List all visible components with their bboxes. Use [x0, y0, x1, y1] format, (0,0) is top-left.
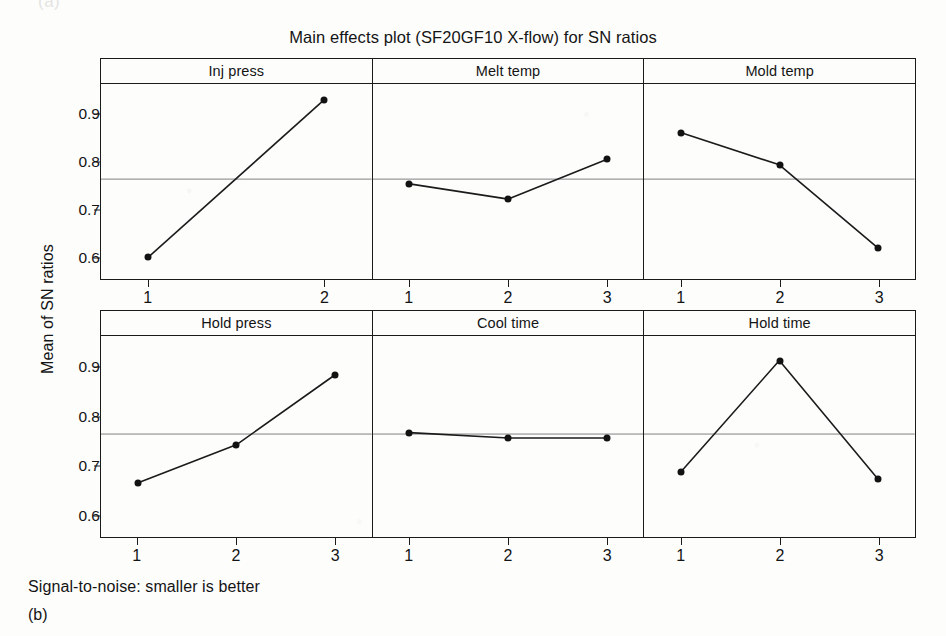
panel-title: Inj press: [208, 63, 264, 79]
data-point: [875, 245, 882, 252]
panel-header: Inj press: [101, 59, 372, 84]
x-tick-label: 1: [135, 289, 161, 307]
data-point: [776, 357, 783, 364]
x-axis-panel-ticks: 123: [644, 280, 916, 310]
x-axis-ticks-bottom-row: 123123123: [100, 538, 916, 568]
panel-hold-press: Hold press: [100, 310, 372, 538]
x-tick-label: 2: [767, 289, 793, 307]
y-axis-ticks-top-row: 0.90.80.70.6: [48, 83, 100, 280]
x-axis-panel-ticks: 123: [372, 538, 644, 568]
data-point: [677, 469, 684, 476]
x-tick-label: 2: [767, 547, 793, 565]
series-line: [138, 375, 336, 483]
panel-plot-area: [373, 336, 644, 537]
x-tick-label: 2: [495, 547, 521, 565]
panel-melt-temp: Melt temp: [372, 58, 644, 280]
x-tick-label: 3: [866, 289, 892, 307]
data-point: [332, 371, 339, 378]
data-point: [505, 434, 512, 441]
panel-title: Mold temp: [745, 63, 814, 79]
data-point: [603, 434, 610, 441]
x-axis-panel-ticks: 12: [100, 280, 372, 310]
x-tick-label: 3: [322, 547, 348, 565]
x-tick-label: 1: [668, 547, 694, 565]
data-point: [233, 441, 240, 448]
panel-header: Hold time: [644, 311, 915, 336]
x-tick-label: 3: [866, 547, 892, 565]
panel-cool-time: Cool time: [372, 310, 644, 538]
panel-header: Mold temp: [644, 59, 915, 84]
x-tick-label: 1: [668, 289, 694, 307]
x-tick-mark: [780, 538, 781, 545]
x-tick-mark: [681, 538, 682, 545]
panel-header: Hold press: [101, 311, 372, 336]
x-tick-label: 2: [223, 547, 249, 565]
x-tick-mark: [879, 538, 880, 545]
x-tick-label: 1: [396, 547, 422, 565]
y-axis-ticks-bottom-row: 0.90.80.70.6: [48, 335, 100, 538]
data-point: [406, 180, 413, 187]
x-tick-mark: [607, 538, 608, 545]
x-tick-label: 1: [124, 547, 150, 565]
panel-title: Cool time: [477, 315, 539, 331]
x-tick-mark: [148, 280, 149, 287]
x-tick-mark: [335, 538, 336, 545]
signal-to-noise-note: Signal-to-noise: smaller is better: [28, 578, 260, 596]
x-axis-panel-ticks: 123: [100, 538, 372, 568]
x-tick-mark: [879, 280, 880, 287]
x-tick-mark: [324, 280, 325, 287]
data-point: [875, 476, 882, 483]
x-axis-ticks-top-row: 12123123: [100, 280, 916, 310]
series-line: [681, 133, 879, 249]
x-tick-label: 3: [594, 289, 620, 307]
panel-plot-area: [644, 84, 915, 279]
panel-title: Melt temp: [476, 63, 541, 79]
data-point: [505, 196, 512, 203]
x-tick-label: 2: [311, 289, 337, 307]
data-point: [677, 129, 684, 136]
x-tick-mark: [137, 538, 138, 545]
x-tick-mark: [409, 280, 410, 287]
series-line: [681, 361, 879, 480]
panel-row-top: Inj pressMelt tempMold temp: [100, 58, 916, 280]
x-axis-panel-ticks: 123: [372, 280, 644, 310]
x-tick-label: 2: [495, 289, 521, 307]
panel-title: Hold press: [201, 315, 271, 331]
panel-inj-press: Inj press: [100, 58, 372, 280]
x-tick-mark: [681, 280, 682, 287]
x-tick-label: 1: [396, 289, 422, 307]
panel-title: Hold time: [749, 315, 811, 331]
data-point: [321, 96, 328, 103]
data-point: [406, 429, 413, 436]
panel-plot-area: [101, 336, 372, 537]
series-line: [148, 100, 324, 257]
x-tick-mark: [236, 538, 237, 545]
x-tick-mark: [409, 538, 410, 545]
figure-caption: (b): [28, 606, 48, 624]
panel-header: Melt temp: [373, 59, 644, 84]
panel-row-bottom: Hold pressCool timeHold time: [100, 310, 916, 538]
panel-header: Cool time: [373, 311, 644, 336]
data-point: [776, 161, 783, 168]
x-tick-mark: [780, 280, 781, 287]
x-tick-label: 3: [594, 547, 620, 565]
panel-plot-area: [101, 84, 372, 279]
x-tick-mark: [508, 538, 509, 545]
data-point: [134, 480, 141, 487]
panel-hold-time: Hold time: [643, 310, 916, 538]
panel-plot-area: [373, 84, 644, 279]
main-effects-plot: 0.90.80.70.6 0.90.80.70.6 Inj pressMelt …: [0, 0, 946, 636]
data-point: [145, 254, 152, 261]
panel-plot-area: [644, 336, 915, 537]
x-tick-mark: [508, 280, 509, 287]
data-point: [603, 156, 610, 163]
panel-mold-temp: Mold temp: [643, 58, 916, 280]
x-tick-mark: [607, 280, 608, 287]
x-axis-panel-ticks: 123: [644, 538, 916, 568]
